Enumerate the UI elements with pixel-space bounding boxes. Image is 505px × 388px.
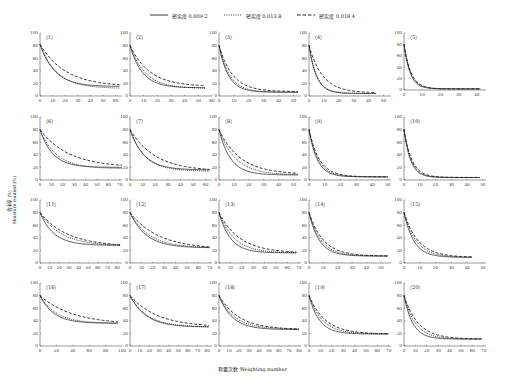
y-tick-label: 20 xyxy=(212,331,218,336)
y-tick-label: 80 xyxy=(212,293,218,298)
series-line-2 xyxy=(130,213,210,247)
series-line-1 xyxy=(309,296,389,334)
y-tick-label: 20 xyxy=(397,76,403,81)
x-tick-label: 40 xyxy=(76,265,82,270)
y-tick-label: 60 xyxy=(397,306,403,311)
x-tick-label: 40 xyxy=(464,265,470,270)
x-tick-label: 50 xyxy=(378,265,384,270)
x-tick-label: 10 xyxy=(413,348,419,353)
x-tick-label: 30 xyxy=(66,265,72,270)
y-tick-label: 40 xyxy=(123,318,129,323)
x-tick-label: 40 xyxy=(83,182,89,187)
x-tick-label: 20 xyxy=(236,348,242,353)
panel-label: （10） xyxy=(407,118,423,124)
panel-7: 0204060801000102030405060（7） xyxy=(120,114,212,186)
x-tick-label: 30 xyxy=(435,348,441,353)
y-tick-label: 100 xyxy=(30,280,38,285)
y-tick-label: 60 xyxy=(123,140,129,145)
series-line-2 xyxy=(309,46,376,93)
x-tick-label: 30 xyxy=(71,182,77,187)
y-tick-label: 60 xyxy=(397,140,403,145)
y-tick-label: 100 xyxy=(209,280,217,285)
x-tick-label: 60 xyxy=(276,348,282,353)
panel-label: （8） xyxy=(222,118,235,124)
x-tick-label: 0 xyxy=(39,98,42,103)
panel-label: （16） xyxy=(43,284,59,290)
x-axis-label: 称量次数 Weighting number xyxy=(0,365,505,372)
y-tick-label: 80 xyxy=(212,127,218,132)
y-tick-label: 100 xyxy=(209,30,217,35)
x-tick-label: 10 xyxy=(322,182,328,187)
y-tick-label: 100 xyxy=(120,114,128,119)
y-tick-label: 100 xyxy=(394,30,402,35)
x-tick-label: 50 xyxy=(381,98,387,103)
x-tick-label: 80 xyxy=(103,348,109,353)
y-tick-label: 60 xyxy=(123,306,129,311)
x-tick-label: 10 xyxy=(321,98,327,103)
series-line-0 xyxy=(130,130,209,170)
x-tick-label: 20 xyxy=(335,265,341,270)
x-tick-label: 30 xyxy=(75,98,81,103)
y-tick-label: 60 xyxy=(212,223,218,228)
y-tick-label: 20 xyxy=(397,165,403,170)
y-tick-label: 60 xyxy=(212,56,218,61)
x-tick-label: 30 xyxy=(261,98,267,103)
series-line-1 xyxy=(219,46,298,93)
panel-20: 020406080100010203040506070（20） xyxy=(394,280,487,352)
panel-label: （11） xyxy=(43,201,59,207)
x-tick-label: 10 xyxy=(137,348,143,353)
x-tick-label: 50 xyxy=(273,265,279,270)
x-tick-label: 60 xyxy=(95,265,101,270)
y-tick-label: 80 xyxy=(33,210,39,215)
x-tick-label: 70 xyxy=(105,265,111,270)
y-tick-label: 80 xyxy=(397,210,403,215)
x-tick-label: 30 xyxy=(246,348,252,353)
x-tick-label: 70 xyxy=(386,348,392,353)
y-tick-label: 100 xyxy=(299,197,307,202)
y-tick-label: 40 xyxy=(123,235,129,240)
y-tick-label: 80 xyxy=(397,42,403,47)
x-tick-label: 40 xyxy=(464,182,470,187)
y-tick-label: 80 xyxy=(397,127,403,132)
y-tick-label: 100 xyxy=(394,280,402,285)
series-line-2 xyxy=(219,296,299,329)
x-tick-label: 20 xyxy=(246,182,252,187)
x-tick-label: 0 xyxy=(308,98,311,103)
x-tick-label: 30 xyxy=(250,265,256,270)
y-tick-label: 40 xyxy=(397,152,403,157)
y-tick-label: 40 xyxy=(302,318,308,323)
y-tick-label: 20 xyxy=(397,248,403,253)
y-tick-label: 60 xyxy=(33,140,39,145)
y-tick-label: 40 xyxy=(212,318,218,323)
panel-label: （6） xyxy=(43,118,56,124)
y-tick-label: 100 xyxy=(394,197,402,202)
y-tick-label: 80 xyxy=(397,293,403,298)
panel-label: （15） xyxy=(407,201,423,207)
panel-label: （18） xyxy=(222,284,238,290)
panel-10: 02040608010001020304050（10） xyxy=(394,114,486,186)
x-tick-label: 20 xyxy=(155,98,161,103)
y-tick-label: 80 xyxy=(302,127,308,132)
y-tick-label: 20 xyxy=(123,331,129,336)
x-tick-label: 70 xyxy=(296,265,302,270)
y-tick-label: 60 xyxy=(302,140,308,145)
x-tick-label: 10 xyxy=(226,348,232,353)
series-line-2 xyxy=(130,296,209,326)
series-line-2 xyxy=(309,296,389,334)
y-tick-label: 80 xyxy=(212,210,218,215)
x-tick-label: 70 xyxy=(481,348,487,353)
series-line-1 xyxy=(40,296,118,323)
y-tick-label: 60 xyxy=(302,56,308,61)
y-tick-label: 80 xyxy=(123,43,129,48)
x-tick-label: 30 xyxy=(165,182,171,187)
series-line-1 xyxy=(219,296,299,329)
x-tick-label: 30 xyxy=(168,98,174,103)
series-line-2 xyxy=(404,296,481,339)
x-tick-label: 80 xyxy=(205,348,211,353)
series-line-1 xyxy=(40,44,119,88)
series-line-0 xyxy=(309,130,388,177)
x-tick-label: 0 xyxy=(129,98,132,103)
x-tick-label: 40 xyxy=(364,265,370,270)
series-line-2 xyxy=(309,213,388,256)
y-tick-label: 20 xyxy=(123,165,129,170)
